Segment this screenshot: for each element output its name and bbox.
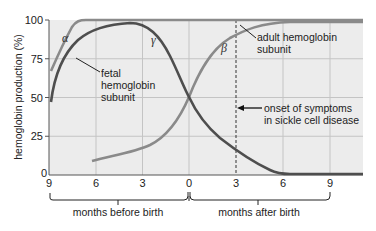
x-tick-after-3: 3 [233, 177, 239, 189]
fetal-label-line2: hemoglobin [101, 79, 155, 91]
x-tick-after-6: 6 [280, 177, 286, 189]
onset-label-line1: onset of symptoms [264, 102, 352, 114]
months-before-birth-label: months before birth [73, 206, 164, 218]
months-after-birth-label: months after birth [218, 206, 300, 218]
y-tick-75: 75 [31, 53, 43, 65]
adult-label-line1: adult hemoglobin [257, 31, 337, 43]
y-ticks [45, 20, 49, 136]
y-tick-100: 100 [25, 14, 43, 26]
x-tick-0: 0 [186, 177, 192, 189]
y-tick-50: 50 [31, 92, 43, 104]
hemoglobin-production-chart: 100 75 50 25 0 hemoglobin production (%)… [0, 0, 376, 231]
bracket-after-birth [190, 192, 330, 205]
fetal-label-line3: subunit [101, 91, 135, 103]
x-tick-after-9: 9 [327, 177, 333, 189]
fetal-label-line1: fetal [101, 67, 121, 79]
y-tick-25: 25 [31, 130, 43, 142]
x-tick-before-9: 9 [46, 177, 52, 189]
bracket-before-birth [50, 192, 188, 205]
adult-label-line2: subunit [257, 43, 291, 55]
x-tick-before-3: 3 [139, 177, 145, 189]
gamma-label: γ [151, 33, 156, 47]
alpha-label: α [62, 31, 69, 45]
y-axis-label: hemoglobin production (%) [12, 34, 24, 160]
beta-label: β [220, 41, 227, 55]
onset-label-line2: in sickle cell disease [264, 114, 359, 126]
x-tick-before-6: 6 [93, 177, 99, 189]
